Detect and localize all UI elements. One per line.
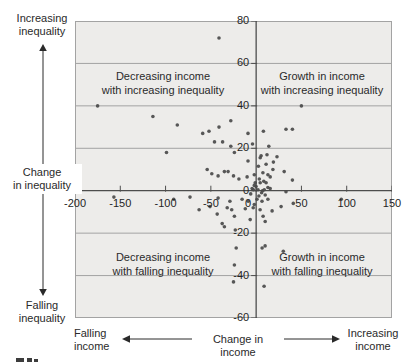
- quadrant-label-top-right: Growth in income with increasing inequal…: [247, 70, 397, 97]
- scatter-figure: Increasing inequality Change in inequali…: [0, 0, 413, 363]
- y-tick-label: 60: [209, 56, 249, 69]
- quad-br-line1: Growth in income: [279, 251, 365, 263]
- change-in-inequality-label: Change in inequality: [2, 164, 82, 194]
- arrow-left-icon: [122, 335, 130, 343]
- x-tick-label: -100: [144, 197, 188, 210]
- y-tick-label: 40: [209, 99, 249, 112]
- quad-bl-line1: Decreasing income: [116, 251, 210, 263]
- x-tick-label: -150: [98, 197, 142, 210]
- x-tick-label: 100: [325, 197, 369, 210]
- increasing-income-label: Increasing income: [340, 327, 406, 353]
- x-tick-label: -200: [53, 197, 97, 210]
- y-tick-label: 20: [209, 141, 249, 154]
- quadrant-label-bottom-right: Growth in income with falling inequality: [247, 251, 397, 278]
- y-tick-label: -20: [209, 226, 249, 239]
- quad-tl-line1: Decreasing income: [116, 70, 210, 82]
- change-in-inequality-line2: in inequality: [13, 179, 71, 191]
- x-tick-label: 150: [370, 197, 413, 210]
- increasing-inequality-label: Increasing inequality: [4, 12, 80, 38]
- change-in-income-text: Change in income: [213, 333, 263, 358]
- quad-br-line2: with falling inequality: [272, 265, 373, 277]
- y-tick-label: -60: [209, 311, 249, 324]
- quadrant-label-top-left: Decreasing income with increasing inequa…: [88, 70, 238, 97]
- income-axis-arrow-right: [284, 334, 340, 344]
- arrow-right-icon: [332, 335, 340, 343]
- falling-income-line2: income: [74, 340, 109, 352]
- falling-income-label: Falling income: [72, 327, 124, 353]
- quad-tl-line2: with increasing inequality: [102, 84, 224, 96]
- income-axis-arrow-left: [122, 334, 192, 344]
- x-tick-label: 50: [279, 197, 323, 210]
- y-tick-label: -40: [209, 269, 249, 282]
- falling-inequality-line1: Falling: [26, 299, 58, 311]
- quad-tr-line2: with increasing inequality: [261, 84, 383, 96]
- change-in-income-label: Change in income: [194, 333, 282, 359]
- change-in-inequality-line1: Change: [23, 166, 62, 178]
- falling-income-line1: Falling: [74, 327, 106, 339]
- y-tick-label: 80: [209, 14, 249, 27]
- falling-inequality-label: Falling inequality: [4, 299, 80, 325]
- increasing-inequality-line1: Increasing: [17, 12, 68, 24]
- increasing-inequality-line2: inequality: [19, 25, 65, 37]
- quad-tr-line1: Growth in income: [279, 70, 365, 82]
- arrow-up-icon: [39, 44, 47, 51]
- x-tick-label: 0: [226, 197, 270, 210]
- increasing-income-line2: income: [355, 340, 390, 352]
- increasing-income-line1: Increasing: [348, 327, 399, 339]
- falling-inequality-line2: inequality: [19, 312, 65, 324]
- plot-area: Decreasing income with increasing inequa…: [75, 21, 392, 318]
- y-tick-label: 0: [209, 184, 249, 197]
- quad-bl-line2: with falling inequality: [113, 265, 214, 277]
- arrow-down-icon: [39, 289, 47, 296]
